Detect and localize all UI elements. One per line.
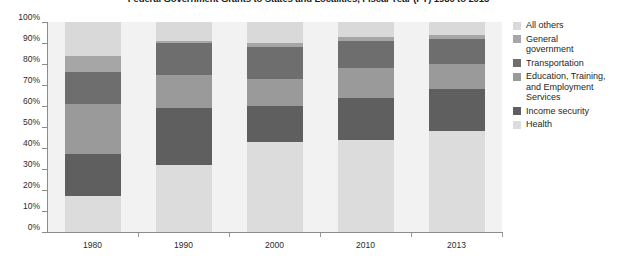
x-axis-tick xyxy=(138,233,139,237)
legend-swatch-icon xyxy=(513,107,521,115)
plot-area xyxy=(47,22,502,232)
x-axis-tick xyxy=(320,233,321,237)
legend-item[interactable]: General government xyxy=(513,34,617,55)
x-axis-tick-label: 1990 xyxy=(174,240,193,250)
x-axis-tick-label: 2013 xyxy=(447,240,466,250)
bar-segment[interactable] xyxy=(429,22,485,35)
legend-item-label: Education, Training, and Employment Serv… xyxy=(526,71,606,103)
legend-item-label: Income security xyxy=(526,106,589,117)
bar-2013[interactable] xyxy=(429,22,485,232)
y-axis-tick xyxy=(42,169,47,170)
y-axis-tick xyxy=(42,43,47,44)
bar-segment[interactable] xyxy=(429,89,485,131)
bar-segment[interactable] xyxy=(247,43,303,47)
y-axis-tick xyxy=(42,22,47,23)
bar-segment[interactable] xyxy=(156,43,212,75)
y-axis-tick-label: 90% xyxy=(0,33,40,43)
y-axis-tick xyxy=(42,106,47,107)
legend-swatch-icon xyxy=(513,73,521,81)
bar-segment[interactable] xyxy=(338,41,394,68)
bar-2010[interactable] xyxy=(338,22,394,232)
y-axis-tick-label: 50% xyxy=(0,117,40,127)
bar-segment[interactable] xyxy=(156,75,212,109)
bar-segment[interactable] xyxy=(247,22,303,43)
legend-item-label: All others xyxy=(526,20,564,31)
bar-segment[interactable] xyxy=(247,47,303,79)
bar-segment[interactable] xyxy=(338,68,394,97)
legend-swatch-icon xyxy=(513,22,521,30)
bar-2000[interactable] xyxy=(247,22,303,232)
bar-segment[interactable] xyxy=(429,131,485,232)
bar-segment[interactable] xyxy=(156,41,212,43)
x-axis-tick-label: 1980 xyxy=(83,240,102,250)
bar-segment[interactable] xyxy=(65,72,121,104)
legend-swatch-icon xyxy=(513,59,521,67)
legend-item-label: Transportation xyxy=(526,58,584,69)
bar-segment[interactable] xyxy=(338,22,394,37)
chart-title: Federal Government Grants to States and … xyxy=(0,0,617,4)
bar-segment[interactable] xyxy=(247,106,303,142)
x-axis-tick xyxy=(229,233,230,237)
legend-item[interactable]: Transportation xyxy=(513,58,617,69)
bar-segment[interactable] xyxy=(65,154,121,196)
y-axis-tick xyxy=(42,85,47,86)
bar-segment[interactable] xyxy=(338,140,394,232)
y-axis-tick-label: 0% xyxy=(0,222,40,232)
y-axis-tick-label: 100% xyxy=(0,12,40,22)
legend-item[interactable]: Health xyxy=(513,119,617,130)
x-axis-line xyxy=(47,232,503,233)
bar-1980[interactable] xyxy=(65,22,121,232)
y-axis-tick-label: 10% xyxy=(0,201,40,211)
legend-item[interactable]: All others xyxy=(513,20,617,31)
legend-item[interactable]: Income security xyxy=(513,106,617,117)
bar-segment[interactable] xyxy=(429,35,485,39)
legend-item[interactable]: Education, Training, and Employment Serv… xyxy=(513,71,617,103)
x-axis-tick-label: 2000 xyxy=(265,240,284,250)
bar-segment[interactable] xyxy=(338,98,394,140)
legend-item-label: Health xyxy=(526,119,552,130)
bar-segment[interactable] xyxy=(247,79,303,106)
bar-segment[interactable] xyxy=(65,56,121,73)
legend-swatch-icon xyxy=(513,35,521,43)
chart-legend: All othersGeneral governmentTransportati… xyxy=(513,20,617,133)
x-axis-tick-label: 2010 xyxy=(356,240,375,250)
bar-segment[interactable] xyxy=(247,142,303,232)
y-axis-tick-label: 80% xyxy=(0,54,40,64)
y-axis-tick-label: 30% xyxy=(0,159,40,169)
bar-segment[interactable] xyxy=(65,196,121,232)
legend-item-label: General government xyxy=(526,34,574,55)
bar-segment[interactable] xyxy=(156,108,212,165)
bar-1990[interactable] xyxy=(156,22,212,232)
x-axis-tick xyxy=(411,233,412,237)
bar-segment[interactable] xyxy=(429,64,485,89)
bar-segment[interactable] xyxy=(156,22,212,41)
y-axis-tick-label: 70% xyxy=(0,75,40,85)
x-axis-tick xyxy=(502,233,503,237)
y-axis-tick xyxy=(42,190,47,191)
y-axis-tick-label: 60% xyxy=(0,96,40,106)
y-axis-line xyxy=(47,22,48,233)
y-axis-tick xyxy=(42,64,47,65)
y-axis-tick xyxy=(42,232,47,233)
bar-segment[interactable] xyxy=(338,37,394,41)
legend-swatch-icon xyxy=(513,121,521,129)
chart-screenshot: Federal Government Grants to States and … xyxy=(0,0,617,263)
bar-segment[interactable] xyxy=(65,104,121,154)
y-axis-tick xyxy=(42,211,47,212)
y-axis-tick-label: 40% xyxy=(0,138,40,148)
bar-segment[interactable] xyxy=(156,165,212,232)
bar-segment[interactable] xyxy=(65,22,121,56)
y-axis-tick xyxy=(42,127,47,128)
y-axis-tick xyxy=(42,148,47,149)
bar-segment[interactable] xyxy=(429,39,485,64)
y-axis-tick-label: 20% xyxy=(0,180,40,190)
